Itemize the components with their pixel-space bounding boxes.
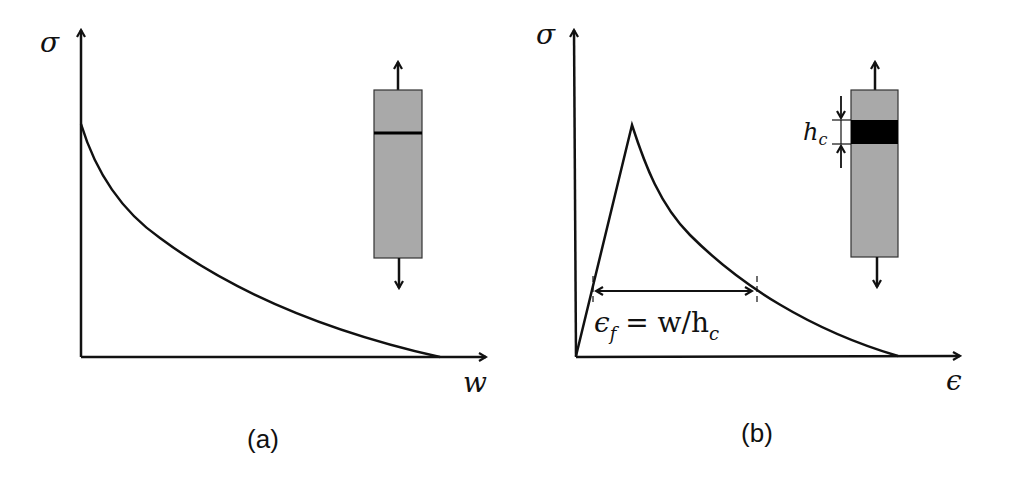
specimen-bar	[851, 90, 898, 257]
panel-a: σ w (a)	[40, 26, 487, 454]
figure: σ w (a) σ ϵ ϵf = w/hc	[0, 0, 1011, 477]
band-height-label: hc	[803, 118, 827, 149]
strain-formula: ϵf = w/hc	[594, 306, 719, 344]
x-axis	[576, 356, 960, 357]
x-axis-label: w	[463, 366, 487, 399]
y-axis-label: σ	[536, 18, 556, 51]
panel-b: σ ϵ ϵf = w/hc hc (b)	[536, 18, 962, 448]
y-axis-label: σ	[40, 26, 60, 59]
specimen-bar	[374, 90, 422, 258]
specimen-inset	[374, 62, 422, 288]
y-axis	[574, 30, 576, 357]
caption-b: (b)	[741, 418, 773, 448]
caption-a: (a)	[247, 424, 279, 454]
x-axis-label: ϵ	[946, 364, 962, 397]
crack-band	[851, 120, 898, 144]
strain-width-annotation: ϵf = w/hc	[593, 276, 757, 344]
specimen-inset: hc	[803, 62, 898, 287]
